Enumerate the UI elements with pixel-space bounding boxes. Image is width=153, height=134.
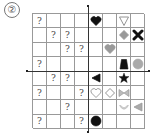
grid-cell bbox=[103, 43, 117, 57]
star-icon bbox=[118, 72, 130, 84]
grid-cell bbox=[75, 28, 89, 42]
question-mark: ? bbox=[37, 88, 42, 98]
heart-icon bbox=[90, 15, 102, 27]
grid-cell bbox=[33, 72, 47, 86]
question-mark: ? bbox=[51, 30, 56, 40]
grid-cell bbox=[103, 57, 117, 71]
question-mark: ? bbox=[79, 88, 84, 98]
question-mark: ? bbox=[65, 30, 70, 40]
grid-cell: ? bbox=[61, 72, 75, 86]
grid-cell bbox=[117, 14, 131, 28]
grid-cell: ? bbox=[61, 28, 75, 42]
vertical-symmetry-axis bbox=[88, 6, 89, 133]
grid-cell: ? bbox=[75, 115, 89, 129]
grid-cell bbox=[75, 100, 89, 114]
triangle-left-icon bbox=[132, 101, 144, 113]
grid-cell bbox=[61, 115, 75, 129]
grid-cell: ? bbox=[61, 43, 75, 57]
question-mark: ? bbox=[65, 102, 70, 112]
question-mark: ? bbox=[37, 59, 42, 69]
question-mark: ? bbox=[37, 116, 42, 126]
horizontal-symmetry-axis bbox=[27, 71, 149, 72]
axis-end-mark-left bbox=[26, 70, 28, 72]
grid-cell: ? bbox=[75, 43, 89, 57]
grid-cell bbox=[131, 86, 145, 100]
grid-cell bbox=[117, 43, 131, 57]
circle-icon bbox=[132, 58, 144, 70]
grid-cell bbox=[117, 115, 131, 129]
grid-cell bbox=[89, 100, 103, 114]
grid-cell bbox=[47, 14, 61, 28]
grid-cell bbox=[103, 72, 117, 86]
grid-cell bbox=[117, 28, 131, 42]
grid-cell bbox=[117, 86, 131, 100]
question-mark: ? bbox=[65, 73, 70, 83]
trapezoid-icon bbox=[118, 58, 130, 70]
grid-cell bbox=[47, 100, 61, 114]
problem-number-label: ② bbox=[4, 2, 20, 18]
grid-cell bbox=[75, 14, 89, 28]
axis-end-mark-right bbox=[148, 70, 150, 72]
grid-cell: ? bbox=[61, 100, 75, 114]
grid-cell bbox=[103, 14, 117, 28]
grid-cell bbox=[33, 100, 47, 114]
grid-cell bbox=[89, 72, 103, 86]
axis-end-mark-top bbox=[87, 5, 89, 7]
grid-cell bbox=[47, 57, 61, 71]
grid-cell bbox=[117, 72, 131, 86]
bowtie-icon bbox=[118, 87, 130, 99]
grid-cell: ? bbox=[47, 72, 61, 86]
grid-cell bbox=[103, 86, 117, 100]
grid-cell bbox=[47, 43, 61, 57]
diamond-icon bbox=[118, 29, 130, 41]
triangle-left-icon bbox=[90, 72, 102, 84]
grid-cell bbox=[89, 115, 103, 129]
grid-cell bbox=[47, 86, 61, 100]
grid-cell bbox=[131, 57, 145, 71]
grid-cell bbox=[89, 57, 103, 71]
grid-cell bbox=[131, 43, 145, 57]
grid-cell bbox=[61, 14, 75, 28]
question-mark: ? bbox=[79, 116, 84, 126]
grid-cell bbox=[61, 86, 75, 100]
triangle-down-icon bbox=[118, 15, 130, 27]
grid-cell: ? bbox=[33, 115, 47, 129]
question-mark: ? bbox=[65, 44, 70, 54]
grid-cell: ? bbox=[75, 86, 89, 100]
grid-cell bbox=[89, 28, 103, 42]
grid-cell: ? bbox=[33, 86, 47, 100]
grid-cell bbox=[103, 28, 117, 42]
heart-icon bbox=[90, 87, 102, 99]
question-mark: ? bbox=[79, 44, 84, 54]
grid-cell bbox=[89, 86, 103, 100]
grid-cell bbox=[103, 115, 117, 129]
question-mark: ? bbox=[51, 73, 56, 83]
grid-cell bbox=[75, 72, 89, 86]
grid-cell bbox=[131, 14, 145, 28]
question-mark: ? bbox=[37, 16, 42, 26]
grid-cell: ? bbox=[33, 14, 47, 28]
grid-cell bbox=[33, 43, 47, 57]
x-cross-icon bbox=[132, 29, 144, 41]
grid-cell bbox=[131, 115, 145, 129]
grid-cell bbox=[75, 57, 89, 71]
diamond-icon bbox=[104, 87, 116, 99]
grid-cell bbox=[131, 100, 145, 114]
grid-cell bbox=[103, 100, 117, 114]
grid-cell bbox=[61, 57, 75, 71]
axis-end-mark-bottom bbox=[87, 131, 89, 133]
smile-arc-icon bbox=[118, 101, 130, 113]
grid-cell: ? bbox=[47, 28, 61, 42]
circle-icon bbox=[90, 115, 102, 127]
grid-cell bbox=[117, 57, 131, 71]
grid-cell bbox=[33, 28, 47, 42]
grid-cell bbox=[131, 72, 145, 86]
grid-cell: ? bbox=[33, 57, 47, 71]
grid-cell bbox=[131, 28, 145, 42]
grid-cell bbox=[89, 43, 103, 57]
heart-icon bbox=[104, 43, 116, 55]
grid-cell bbox=[117, 100, 131, 114]
grid-cell bbox=[47, 115, 61, 129]
grid-cell bbox=[89, 14, 103, 28]
